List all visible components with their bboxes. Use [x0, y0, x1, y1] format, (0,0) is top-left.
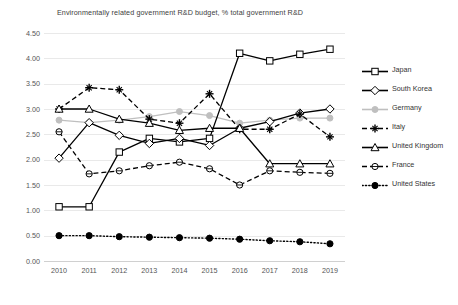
legend-marker: [372, 107, 378, 113]
data-point: [176, 109, 182, 115]
data-point: [237, 182, 243, 188]
chart-legend: JapanSouth KoreaGermanyItalyUnited Kingd…: [362, 66, 458, 199]
legend-marker: [372, 163, 378, 169]
data-point: [237, 236, 243, 242]
legend-swatch: [362, 162, 388, 171]
data-point: [327, 170, 333, 176]
legend-marker: [371, 125, 379, 133]
series-italy: [55, 84, 334, 141]
data-point: [115, 131, 123, 139]
data-point: [146, 163, 152, 169]
data-point: [146, 234, 152, 240]
data-point: [207, 113, 213, 119]
data-point: [267, 168, 273, 174]
legend-marker: [372, 68, 378, 74]
data-point: [297, 51, 303, 57]
legend-swatch: [362, 67, 388, 76]
legend-item-label: South Korea: [392, 85, 432, 94]
series-japan: [56, 46, 333, 210]
data-point: [115, 86, 123, 94]
legend-swatch: [362, 86, 388, 95]
data-point: [297, 239, 303, 245]
series-line: [59, 109, 330, 158]
legend-swatch: [362, 124, 388, 133]
data-point: [56, 233, 62, 239]
series-line: [59, 109, 330, 164]
data-point: [206, 166, 212, 172]
data-point: [326, 133, 334, 141]
data-point: [205, 141, 213, 149]
data-point: [326, 105, 334, 113]
series-line: [59, 49, 330, 207]
legend-swatch: [362, 143, 388, 152]
data-point: [267, 238, 273, 244]
data-point: [266, 125, 274, 133]
data-point: [116, 149, 122, 155]
legend-item-italy[interactable]: Italy: [362, 123, 458, 132]
legend-item-south-korea[interactable]: South Korea: [362, 85, 458, 94]
legend-item-label: Italy: [392, 123, 405, 132]
series-line: [59, 236, 330, 244]
legend-marker: [371, 86, 379, 94]
series-france: [56, 129, 333, 188]
legend-item-label: France: [392, 161, 414, 170]
legend-item-germany[interactable]: Germany: [362, 104, 458, 113]
legend-item-label: United States: [392, 180, 435, 189]
data-point: [297, 169, 303, 175]
data-point: [86, 204, 92, 210]
legend-item-label: United Kingdom: [392, 142, 443, 151]
data-point: [85, 84, 93, 92]
data-point: [176, 159, 182, 165]
data-point: [116, 234, 122, 240]
data-point: [206, 235, 212, 241]
data-point: [56, 204, 62, 210]
legend-item-united-states[interactable]: United States: [362, 180, 458, 189]
data-point: [116, 168, 122, 174]
data-point: [86, 233, 92, 239]
legend-item-label: Japan: [392, 66, 412, 75]
data-point: [176, 235, 182, 241]
legend-swatch: [362, 105, 388, 114]
legend-item-france[interactable]: France: [362, 161, 458, 170]
legend-item-label: Germany: [392, 104, 422, 113]
data-point: [56, 129, 62, 135]
legend-swatch: [362, 181, 388, 190]
data-point: [86, 171, 92, 177]
legend-item-japan[interactable]: Japan: [362, 66, 458, 75]
data-point: [236, 50, 242, 56]
data-point: [327, 46, 333, 52]
legend-item-united-kingdom[interactable]: United Kingdom: [362, 142, 458, 151]
data-point: [327, 241, 333, 247]
data-point: [267, 58, 273, 64]
data-point: [327, 115, 333, 121]
legend-marker: [372, 182, 378, 188]
series-united-states: [56, 233, 333, 247]
chart-container: Environmentally related government R&D b…: [0, 0, 458, 305]
series-united-kingdom: [55, 105, 334, 167]
series-line: [59, 112, 330, 124]
data-point: [56, 117, 62, 123]
